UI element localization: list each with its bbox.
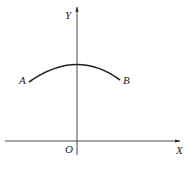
origin-label: O	[65, 143, 73, 155]
point-a-label: A	[18, 74, 26, 86]
arc-curve	[29, 64, 120, 82]
x-axis-label: X	[175, 144, 184, 156]
y-axis-label: Y	[65, 9, 73, 21]
point-b-label: B	[123, 74, 130, 86]
coordinate-diagram: Y X O A B	[0, 0, 184, 170]
